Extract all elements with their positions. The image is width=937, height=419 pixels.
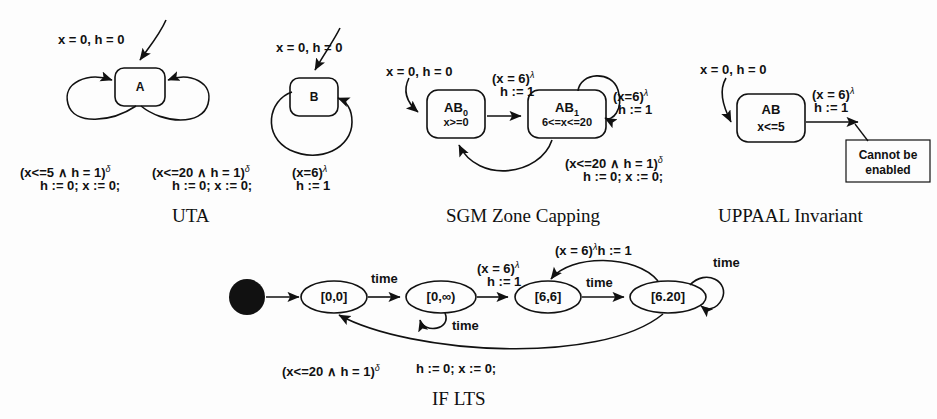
state-B-name: B <box>310 90 319 104</box>
lts-back-guard-text: (x<=20 ∧ h = 1) <box>282 364 375 379</box>
sgm-transition-2-action: h := 1 <box>618 102 652 117</box>
uppaal-caption: UPPAAL Invariant <box>718 205 863 227</box>
sgm-caption: SGM Zone Capping <box>446 205 600 227</box>
sgm-t3-guard-superscript: δ <box>658 155 663 165</box>
b-guard-superscript: λ <box>323 164 327 174</box>
state-B-label: B <box>290 90 338 104</box>
state-A-label: A <box>115 80 165 94</box>
lts-back-guard-superscript: δ <box>375 363 380 373</box>
state-AB0-invariant: x>=0 <box>427 116 485 128</box>
b-init-label: x = 0, h = 0 <box>276 40 343 55</box>
uta-t1-guard-superscript: δ <box>106 164 111 174</box>
lts-return-guard: (x<=20 ∧ h = 1)δ <box>282 361 380 379</box>
lts-g2-action: h := 1 <box>597 243 631 258</box>
uppaal-guard-superscript: λ <box>850 86 854 96</box>
sgm-transition-3-action: h := 0; x := 0; <box>583 169 663 184</box>
lts-return-action: h := 0; x := 0; <box>416 361 496 376</box>
uta-caption: UTA <box>172 205 210 227</box>
b-transition-action: h := 1 <box>296 178 330 193</box>
lts-g2-text: (x = 6) <box>555 243 593 258</box>
sgm-t1-guard-superscript: λ <box>530 70 534 80</box>
state-AB0-name: AB <box>444 100 463 115</box>
cannot-be-enabled-note: Cannot be enabled <box>846 148 930 178</box>
lts-state-3-label: [6.20] <box>630 289 706 304</box>
lts-transition-2-label: (x = 6)λh := 1 <box>555 240 632 258</box>
state-AB-invariant: x<=5 <box>737 120 805 134</box>
lts-state-1-label: [0,∞) <box>406 289 476 304</box>
state-AB0-label: AB0 <box>427 100 485 118</box>
lts-g1-superscript: λ <box>515 260 519 270</box>
lts-state-2-label: [6,6] <box>515 289 581 304</box>
lts-time-label-4: time <box>713 255 740 270</box>
figure-canvas: x = 0, h = 0 A (x<=5 ∧ h = 1)δ h := 0; x… <box>0 0 937 419</box>
state-AB1-invariant: 6<=x<=20 <box>528 116 606 128</box>
uta-init-label: x = 0, h = 0 <box>58 32 125 47</box>
uppaal-transition-action: h := 1 <box>814 100 848 115</box>
lts-caption: IF LTS <box>432 388 486 410</box>
uppaal-init-label: x = 0, h = 0 <box>700 62 767 77</box>
uta-transition-2-action: h := 0; x := 0; <box>172 178 252 193</box>
uta-transition-1-action: h := 0; x := 0; <box>40 178 120 193</box>
lts-transition-1-action: h := 1 <box>487 274 521 289</box>
lts-time-label-2: time <box>452 318 479 333</box>
sgm-transition-1-action: h := 1 <box>500 84 534 99</box>
lts-time-label-3: time <box>586 275 613 290</box>
sgm-init-label: x = 0, h = 0 <box>386 64 453 79</box>
lts-state-0-label: [0,0] <box>301 289 367 304</box>
note-line-2: enabled <box>846 163 930 178</box>
state-AB-label: AB <box>737 102 805 117</box>
state-A-name: A <box>136 80 145 94</box>
uta-t2-guard-superscript: δ <box>245 164 250 174</box>
note-line-1: Cannot be <box>846 148 930 163</box>
state-AB1-label: AB1 <box>528 100 606 118</box>
sgm-t2-guard-superscript: λ <box>644 88 648 98</box>
lts-time-label-1: time <box>371 271 398 286</box>
state-AB1-name: AB <box>555 100 574 115</box>
